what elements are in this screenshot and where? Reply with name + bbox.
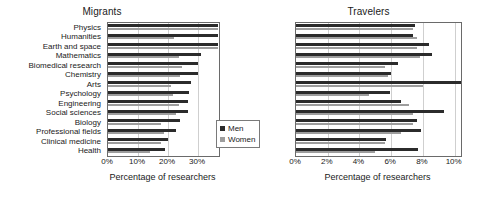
y-category-label: Clinical medicine [0,137,104,147]
bar-women [296,104,409,106]
x-tick-label: 20% [159,157,175,166]
x-tick-label: 10% [446,157,462,166]
bar-group [296,137,461,147]
y-category-label: Humanities [0,32,104,42]
x-tick-label: 6% [384,157,396,166]
bar-men [108,91,189,94]
x-tick-label: 0% [101,157,113,166]
legend-item-women: Women [220,134,255,145]
x-tick-label: 10% [129,157,145,166]
legend-label-men: Men [228,123,244,134]
legend: Men Women [216,120,260,148]
bar-group [296,109,461,119]
bar-group [296,147,461,157]
chart-title-migrants: Migrants [0,6,222,17]
bar-men [108,148,165,151]
y-category-label: Professional fields [0,127,104,137]
x-axis-ticks-migrants: 0%10%20%30% [107,157,218,168]
bar-women [108,75,180,77]
bar-women [296,56,420,58]
bar-women [108,142,161,144]
bar-men [296,110,444,113]
y-category-label: Biology [0,118,104,128]
bar-women [108,94,173,96]
bar-men [296,34,413,37]
y-category-label: Social sciences [0,108,104,118]
chart-panel-migrants: Migrants PhysicsHumanitiesEarth and spac… [0,0,240,201]
bar-men [296,119,417,122]
bar-men [296,148,418,151]
bar-group [296,52,461,62]
legend-swatch-men-icon [220,126,225,131]
bar-men [296,24,415,27]
bar-group [108,52,219,62]
bar-group [296,128,461,138]
x-tick-label: 0% [289,157,301,166]
bar-group [296,23,461,33]
plot-area-travelers [295,22,462,157]
bar-women [108,123,161,125]
bar-men [108,110,188,113]
bar-men [296,100,401,103]
legend-label-women: Women [228,134,255,145]
bar-women [296,142,385,144]
bar-women [108,28,218,30]
bar-women [296,151,375,153]
y-axis-category-labels-migrants: PhysicsHumanitiesEarth and spaceMathemat… [0,23,104,156]
bar-women [296,66,385,68]
bar-group [108,118,219,128]
bar-women [108,66,182,68]
legend-swatch-women-icon [220,137,225,142]
bar-group [108,80,219,90]
y-category-label: Health [0,146,104,156]
bar-men [296,72,391,75]
y-category-label: Arts [0,80,104,90]
y-category-label: Chemistry [0,70,104,80]
plot-area-migrants [107,22,220,157]
bar-group [296,99,461,109]
x-axis-ticks-travelers: 0%2%4%6%8%10% [295,157,460,168]
bar-group [296,42,461,52]
bar-men [108,53,201,56]
bar-men [108,138,168,141]
x-axis-title-migrants: Percentage of researchers [107,172,218,182]
y-category-label: Psychology [0,89,104,99]
x-axis-title-travelers: Percentage of researchers [295,172,460,182]
legend-item-men: Men [220,123,255,134]
y-category-label: Physics [0,23,104,33]
bar-men [296,53,432,56]
bar-group [108,137,219,147]
bar-group [108,33,219,43]
bar-men [296,91,390,94]
bar-group [108,71,219,81]
bar-group [296,33,461,43]
bar-group [108,128,219,138]
bar-men [296,43,429,46]
bar-men [108,129,176,132]
bar-women [108,37,174,39]
bar-men [108,72,198,75]
figure-root: Migrants PhysicsHumanitiesEarth and spac… [0,0,481,201]
y-category-label: Engineering [0,99,104,109]
bar-group [108,147,219,157]
bar-women [108,47,218,49]
x-tick-label: 30% [189,157,205,166]
bar-women [296,94,369,96]
bar-men [108,100,188,103]
bar-group [108,90,219,100]
bar-women [108,56,179,58]
bar-men [296,81,461,84]
bar-women [296,113,413,115]
bar-women [108,132,164,134]
bar-women [108,104,179,106]
bar-men [108,119,180,122]
bar-men [296,138,386,141]
bar-women [296,123,413,125]
bar-men [108,43,218,46]
x-tick-label: 4% [353,157,365,166]
bar-women [108,85,171,87]
bar-women [296,85,423,87]
bar-men [108,62,198,65]
y-category-label: Biomedical research [0,61,104,71]
x-tick-label: 8% [416,157,428,166]
